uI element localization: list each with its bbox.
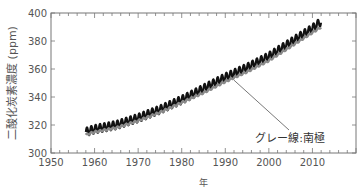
x-tick-label: 1990 — [213, 157, 238, 168]
annotation-leader-line — [234, 80, 289, 130]
chart-canvas: 1950196019701980199020002010 30032034036… — [0, 0, 364, 191]
x-tick-label: 2000 — [256, 157, 281, 168]
x-tick-label: 1960 — [82, 157, 107, 168]
y-tick-label: 380 — [28, 36, 47, 47]
y-tick-label: 400 — [28, 8, 47, 19]
y-tick-label: 360 — [28, 64, 47, 75]
y-axis-label: 二酸化炭素濃度 (ppm) — [5, 26, 19, 140]
y-tick-label: 320 — [28, 120, 47, 131]
co2-concentration-chart: 1950196019701980199020002010 30032034036… — [0, 0, 364, 191]
y-tick-label: 340 — [28, 92, 47, 103]
x-axis-label: 年 — [199, 177, 208, 188]
series-mauna-loa-line — [86, 20, 321, 135]
series-layer — [86, 20, 321, 135]
y-tick-label: 300 — [28, 148, 47, 159]
annotation-south-pole: グレー線:南極 — [255, 131, 325, 145]
x-tick-label: 1970 — [125, 157, 150, 168]
x-tick-label: 1980 — [169, 157, 194, 168]
x-tick-label: 2010 — [300, 157, 325, 168]
